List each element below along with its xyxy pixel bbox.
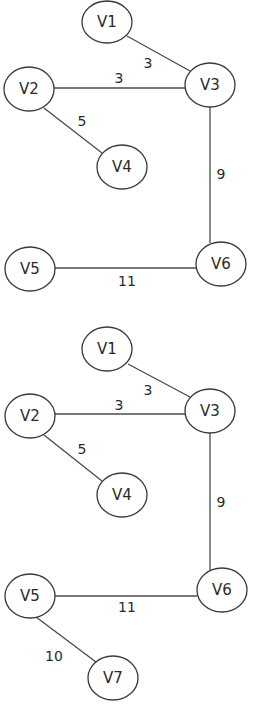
node-v6: V6 — [197, 568, 247, 612]
node-label: V6 — [211, 255, 231, 273]
weight-v2-v3: 3 — [115, 70, 124, 86]
graph-top: 3 3 5 9 11 V1 V2 V3 V4 V5 V6 — [4, 1, 246, 291]
weight-v1-v3: 3 — [144, 382, 153, 398]
graph-bottom: 3 3 5 9 11 10 V1 V2 V3 V4 V5 — [5, 327, 247, 700]
weight-v2-v3: 3 — [115, 397, 124, 413]
node-label: V6 — [212, 581, 232, 599]
edge-v2-v4 — [44, 108, 102, 153]
node-v5: V5 — [5, 574, 55, 618]
node-v3: V3 — [185, 63, 235, 107]
node-label: V3 — [200, 76, 220, 94]
node-label: V3 — [200, 402, 220, 420]
node-label: V1 — [97, 13, 117, 31]
edge-v1-v3 — [128, 364, 190, 397]
node-label: V7 — [103, 669, 123, 687]
node-label: V4 — [112, 486, 132, 504]
graph-diagram: 3 3 5 9 11 V1 V2 V3 V4 V5 V6 — [0, 0, 255, 721]
node-v7: V7 — [88, 656, 138, 700]
edge-v1-v3 — [127, 36, 190, 71]
node-v1: V1 — [82, 1, 132, 43]
node-label: V5 — [20, 260, 40, 278]
node-v1: V1 — [82, 327, 132, 371]
node-v5: V5 — [5, 247, 55, 291]
weight-v2-v4: 5 — [78, 113, 87, 129]
node-v3: V3 — [185, 389, 235, 433]
node-v2: V2 — [5, 394, 55, 438]
weight-v5-v6: 11 — [118, 599, 136, 615]
node-label: V4 — [112, 158, 132, 176]
node-label: V5 — [20, 587, 40, 605]
node-v6: V6 — [196, 242, 246, 286]
weight-v2-v4: 5 — [78, 441, 87, 457]
node-v4: V4 — [97, 473, 147, 517]
node-label: V2 — [20, 407, 40, 425]
node-label: V2 — [19, 80, 39, 98]
weight-v3-v6: 9 — [217, 494, 226, 510]
weight-v5-v6: 11 — [118, 273, 136, 289]
weight-v5-v7: 10 — [45, 648, 63, 664]
node-label: V1 — [97, 340, 117, 358]
node-v4: V4 — [97, 145, 147, 189]
weight-v3-v6: 9 — [217, 166, 226, 182]
weight-v1-v3: 3 — [144, 55, 153, 71]
node-v2: V2 — [4, 67, 54, 111]
edge-v2-v4 — [44, 435, 102, 481]
